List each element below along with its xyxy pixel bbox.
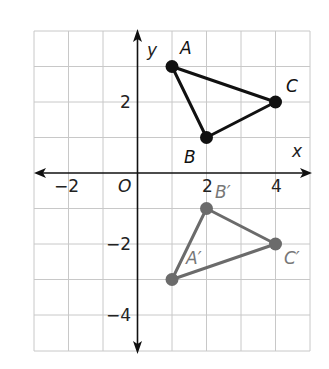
- label-c-prime: C′: [284, 248, 300, 268]
- label-a: A: [179, 38, 192, 58]
- y-tick-neg4: −4: [106, 305, 131, 325]
- y-tick-2: 2: [120, 92, 131, 112]
- point-a-prime: [166, 273, 179, 286]
- coordinate-plane: y x O −2 2 4 2 −2 −4 A B C A′ B′ C′: [0, 0, 329, 369]
- point-b: [200, 131, 213, 144]
- y-axis-label: y: [146, 40, 158, 60]
- point-a: [166, 60, 179, 73]
- y-tick-neg2: −2: [106, 234, 131, 254]
- point-c: [269, 96, 282, 109]
- x-tick-2: 2: [202, 176, 213, 196]
- label-c: C: [286, 76, 298, 96]
- label-b: B: [184, 147, 196, 167]
- origin-label: O: [118, 176, 131, 196]
- point-c-prime: [269, 238, 282, 251]
- label-a-prime: A′: [185, 248, 202, 268]
- y-axis: [133, 29, 142, 354]
- x-tick-neg2: −2: [54, 176, 79, 196]
- triangle-a-prime-b-prime-c-prime: A′ B′ C′: [166, 182, 300, 286]
- label-b-prime: B′: [215, 182, 231, 202]
- x-axis-label: x: [291, 141, 303, 161]
- x-tick-4: 4: [271, 176, 282, 196]
- point-b-prime: [200, 202, 213, 215]
